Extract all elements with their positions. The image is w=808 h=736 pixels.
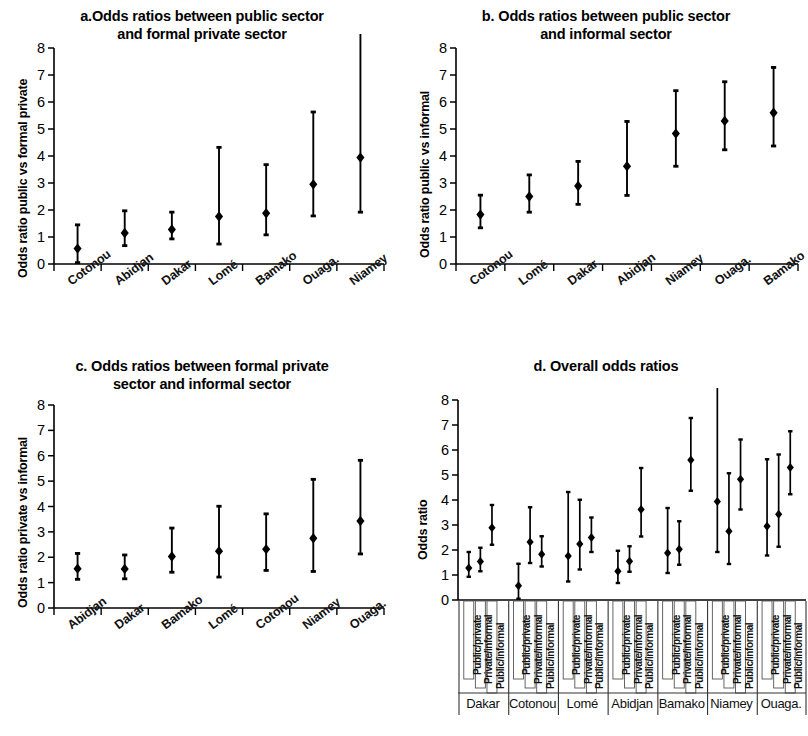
y-tick-label: 7 bbox=[439, 67, 447, 83]
panel-c-title-line2: sector and informal sector bbox=[0, 376, 404, 394]
y-tick-label: 4 bbox=[37, 148, 45, 164]
error-bar-point bbox=[672, 89, 680, 167]
y-tick-label: 4 bbox=[37, 499, 45, 515]
comparison-label: Public/informal bbox=[496, 623, 506, 689]
error-bar-point bbox=[121, 554, 129, 581]
y-tick-label: 4 bbox=[441, 492, 449, 508]
comparison-label: Private/informal bbox=[634, 615, 644, 684]
comparison-label: Public/informal bbox=[745, 623, 755, 689]
error-bar-point bbox=[614, 550, 621, 585]
error-bar-point bbox=[737, 438, 744, 510]
error-bar-point bbox=[721, 80, 729, 151]
y-tick-label: 2 bbox=[37, 549, 45, 565]
panel-c-plot: 012345678 bbox=[28, 405, 398, 624]
error-bar-point bbox=[168, 527, 176, 574]
comparison-label: Public/private bbox=[473, 615, 483, 675]
error-bar-point bbox=[168, 211, 176, 241]
comparison-label: Private/informal bbox=[584, 615, 594, 684]
error-bar-point bbox=[623, 120, 631, 197]
panel-d: d. Overall odds ratios Odds ratio 012345… bbox=[404, 350, 808, 736]
group-label: Niamey bbox=[707, 696, 757, 711]
y-tick-label: 5 bbox=[37, 121, 45, 137]
comparison-label: Public/informal bbox=[595, 623, 605, 689]
error-bar-point bbox=[538, 535, 545, 568]
comparison-label: Private/informal bbox=[733, 615, 743, 684]
comparison-label: Public/private bbox=[572, 615, 582, 675]
error-bar-point bbox=[775, 453, 782, 548]
panel-c-title: c. Odds ratios between formal private se… bbox=[0, 358, 404, 393]
panel-c: c. Odds ratios between formal private se… bbox=[0, 350, 404, 736]
error-bar-point bbox=[215, 505, 223, 579]
y-tick-label: 8 bbox=[439, 40, 447, 56]
y-tick-label: 1 bbox=[441, 567, 449, 583]
panel-b-title: b. Odds ratios between public sector and… bbox=[404, 8, 808, 43]
error-bar-point bbox=[356, 459, 364, 555]
error-bar-point bbox=[770, 66, 778, 147]
y-tick-label: 7 bbox=[37, 67, 45, 83]
group-label: Bamako bbox=[657, 696, 707, 711]
error-bar-point bbox=[574, 160, 582, 206]
y-tick-label: 2 bbox=[37, 202, 45, 218]
panel-d-title-line1: d. Overall odds ratios bbox=[404, 358, 808, 376]
group-label: Dakar bbox=[458, 696, 508, 711]
comparison-label: Private/informal bbox=[683, 615, 693, 684]
error-bar-point bbox=[664, 507, 671, 574]
panel-c-title-line1: c. Odds ratios between formal private bbox=[0, 358, 404, 376]
error-bar-point bbox=[687, 417, 694, 492]
y-tick-label: 6 bbox=[441, 442, 449, 458]
y-tick-label: 1 bbox=[37, 229, 45, 245]
y-tick-label: 2 bbox=[439, 202, 447, 218]
comparison-label: Public/private bbox=[672, 615, 682, 675]
y-tick-label: 5 bbox=[37, 473, 45, 489]
y-tick-label: 8 bbox=[37, 397, 45, 413]
panel-a: a.Odds ratios between public sector and … bbox=[0, 0, 404, 350]
comparison-label: Public/informal bbox=[794, 623, 804, 689]
odds-ratio-figure: a.Odds ratios between public sector and … bbox=[0, 0, 808, 736]
y-tick-label: 3 bbox=[439, 175, 447, 191]
error-bar-point bbox=[626, 545, 633, 573]
error-bar-point bbox=[638, 467, 645, 538]
y-tick-label: 5 bbox=[439, 121, 447, 137]
panel-b-title-line2: and informal sector bbox=[404, 26, 808, 44]
panel-d-y-axis-label: Odds ratio bbox=[416, 499, 430, 560]
error-bar-point bbox=[262, 163, 270, 236]
panel-a-title: a.Odds ratios between public sector and … bbox=[0, 8, 404, 43]
y-tick-label: 5 bbox=[441, 467, 449, 483]
group-label: Ouaga. bbox=[756, 696, 806, 711]
y-tick-label: 2 bbox=[441, 542, 449, 558]
y-tick-label: 0 bbox=[441, 592, 449, 608]
error-bar-point bbox=[714, 388, 721, 553]
y-tick-label: 3 bbox=[441, 517, 449, 533]
error-bar-point bbox=[309, 111, 317, 218]
comparison-label: Public/informal bbox=[645, 623, 655, 689]
comparison-label: Public/private bbox=[771, 615, 781, 675]
error-bar-point bbox=[262, 512, 270, 571]
panel-b-plot: 012345678 bbox=[430, 48, 808, 280]
error-bar-point bbox=[576, 499, 583, 571]
comparison-label: Private/informal bbox=[534, 615, 544, 684]
error-bar-point bbox=[525, 174, 533, 214]
y-tick-label: 8 bbox=[37, 40, 45, 56]
error-bar-point bbox=[565, 491, 572, 583]
y-tick-label: 1 bbox=[439, 229, 447, 245]
error-bar-point bbox=[74, 552, 82, 581]
error-bar-point bbox=[74, 223, 82, 264]
panel-d-title: d. Overall odds ratios bbox=[404, 358, 808, 376]
error-bar-point bbox=[309, 478, 317, 573]
comparison-label: Public/private bbox=[721, 615, 731, 675]
y-tick-label: 7 bbox=[37, 422, 45, 438]
y-tick-label: 0 bbox=[439, 256, 447, 272]
panel-a-title-line2: and formal private sector bbox=[0, 26, 404, 44]
comparison-label: Public/private bbox=[622, 615, 632, 675]
panel-a-plot: 012345678 bbox=[28, 48, 398, 280]
error-bar-point bbox=[121, 209, 129, 247]
y-tick-label: 6 bbox=[37, 448, 45, 464]
y-tick-label: 6 bbox=[37, 94, 45, 110]
group-label: Abidjan bbox=[607, 696, 657, 711]
comparison-label: Private/informal bbox=[783, 615, 793, 684]
panel-b: b. Odds ratios between public sector and… bbox=[404, 0, 808, 350]
y-tick-label: 6 bbox=[439, 94, 447, 110]
error-bar-point bbox=[676, 520, 683, 566]
panel-b-title-line1: b. Odds ratios between public sector bbox=[404, 8, 808, 26]
comparison-label: Private/informal bbox=[484, 615, 494, 684]
